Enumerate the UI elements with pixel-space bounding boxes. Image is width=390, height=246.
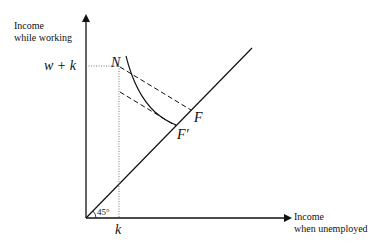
budget-line-to-f-prime	[120, 92, 176, 126]
indifference-curve	[126, 56, 176, 125]
x-axis-label-line2: when unemployed	[294, 223, 368, 235]
angle-label-45: 45°	[97, 206, 110, 218]
angle-arc	[93, 211, 96, 218]
y-tick-label-w-plus-k: w + k	[44, 58, 76, 74]
point-label-f: F	[194, 110, 203, 126]
budget-line-n-to-f	[120, 67, 191, 110]
point-label-f-prime: F′	[177, 127, 189, 143]
y-axis-label-line1: Income	[14, 20, 72, 32]
economic-diagram: Income while working Income when unemplo…	[0, 0, 390, 246]
y-axis-label: Income while working	[14, 20, 72, 44]
x-axis-label: Income when unemployed	[294, 211, 368, 235]
point-label-n: N	[111, 55, 120, 71]
forty-five-degree-line	[86, 48, 252, 218]
x-axis-label-line1: Income	[294, 211, 368, 223]
y-axis-label-line2: while working	[14, 32, 72, 44]
x-tick-label-k: k	[115, 222, 121, 238]
